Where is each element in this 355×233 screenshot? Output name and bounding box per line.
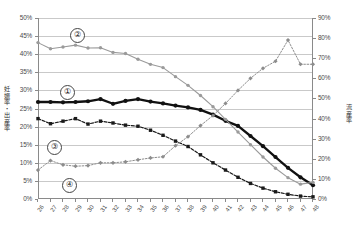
y-tick-label-right: 50%	[318, 94, 348, 101]
series-callout-1: ①	[60, 85, 75, 100]
y-tick-mark-right	[313, 119, 316, 120]
gridline	[39, 163, 312, 164]
gridline	[39, 109, 312, 110]
x-tick-mark	[50, 199, 51, 202]
gridline	[39, 145, 312, 146]
series-callout-4: ④	[62, 178, 77, 193]
y-tick-mark-left	[35, 36, 38, 37]
x-tick-mark	[237, 199, 238, 202]
x-tick-mark	[150, 199, 151, 202]
x-tick-mark	[137, 199, 138, 202]
x-tick-mark	[37, 199, 38, 202]
y-tick-mark-right	[313, 199, 316, 200]
y-tick-label-left: 50%	[2, 14, 32, 21]
y-tick-label-right: 20%	[318, 155, 348, 162]
y-tick-label-right: 70%	[318, 54, 348, 61]
y-tick-label-right: 80%	[318, 34, 348, 41]
gridline	[39, 127, 312, 128]
y-tick-mark-right	[313, 139, 316, 140]
x-tick-mark	[175, 199, 176, 202]
y-tick-mark-left	[35, 72, 38, 73]
gridline	[39, 18, 312, 19]
x-tick-mark	[262, 199, 263, 202]
y-tick-mark-right	[313, 38, 316, 39]
y-tick-label-left: 30%	[2, 86, 32, 93]
y-tick-mark-right	[313, 98, 316, 99]
y-tick-label-right: 90%	[318, 14, 348, 21]
series-callout-2: ②	[70, 28, 85, 43]
y-tick-mark-left	[35, 90, 38, 91]
y-tick-mark-left	[35, 54, 38, 55]
y-tick-mark-left	[35, 109, 38, 110]
x-tick-mark	[162, 199, 163, 202]
x-tick-mark	[212, 199, 213, 202]
x-tick-mark	[100, 199, 101, 202]
y-tick-label-left: 35%	[2, 68, 32, 75]
x-tick-mark	[225, 199, 226, 202]
gridline	[39, 72, 312, 73]
y-tick-label-left: 40%	[2, 50, 32, 57]
y-tick-label-left: 25%	[2, 105, 32, 112]
x-tick-mark	[275, 199, 276, 202]
y-tick-label-left: 5%	[2, 177, 32, 184]
gridline	[39, 54, 312, 55]
x-tick-mark	[300, 199, 301, 202]
y-tick-label-right: 30%	[318, 135, 348, 142]
gridline	[39, 90, 312, 91]
y-tick-label-left: 0%	[2, 195, 32, 202]
y-tick-label-right: 60%	[318, 74, 348, 81]
series-callout-3: ③	[47, 140, 62, 155]
x-tick-mark	[250, 199, 251, 202]
y-tick-mark-right	[313, 78, 316, 79]
x-tick-mark	[87, 199, 88, 202]
y-tick-label-left: 10%	[2, 159, 32, 166]
y-tick-mark-right	[313, 58, 316, 59]
x-tick-mark	[75, 199, 76, 202]
y-tick-mark-right	[313, 179, 316, 180]
y-tick-label-right: 0%	[318, 195, 348, 202]
y-tick-label-right: 10%	[318, 175, 348, 182]
y-tick-mark-right	[313, 18, 316, 19]
chart-root: 妊娠率・出産率 流産率 ① ② ③ ④ 0%5%10%15%20%25%30%3…	[0, 0, 355, 233]
plot-area	[38, 18, 313, 199]
x-tick-mark	[200, 199, 201, 202]
y-tick-mark-left	[35, 145, 38, 146]
y-tick-label-left: 15%	[2, 141, 32, 148]
x-tick-mark	[62, 199, 63, 202]
gridline	[39, 181, 312, 182]
x-tick-mark	[287, 199, 288, 202]
y-tick-label-left: 45%	[2, 32, 32, 39]
x-tick-mark	[312, 199, 313, 202]
x-tick-mark	[125, 199, 126, 202]
y-tick-mark-left	[35, 127, 38, 128]
y-tick-mark-left	[35, 181, 38, 182]
x-tick-mark	[187, 199, 188, 202]
y-tick-mark-left	[35, 163, 38, 164]
y-tick-mark-left	[35, 18, 38, 19]
y-tick-mark-right	[313, 159, 316, 160]
y-tick-label-right: 40%	[318, 115, 348, 122]
y-tick-label-left: 20%	[2, 123, 32, 130]
x-tick-mark	[112, 199, 113, 202]
